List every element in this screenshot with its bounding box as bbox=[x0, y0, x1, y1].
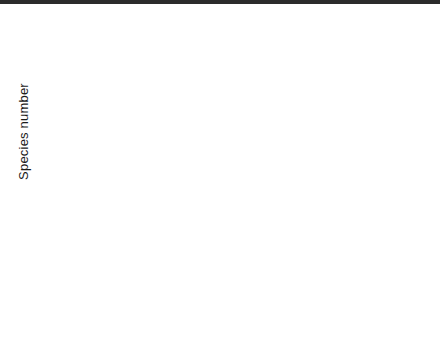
y-axis-title: Species number bbox=[16, 57, 31, 207]
figure-canvas: Species number bbox=[0, 4, 440, 347]
